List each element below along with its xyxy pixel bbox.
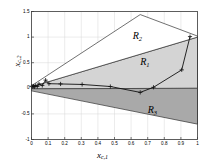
y-axis-label: xc,2 [12,41,22,81]
region-label-R3: R3 [148,104,157,116]
region-label-sub: 1 [146,60,149,67]
figure-canvas: 00.10.20.30.40.50.60.70.80.91 1.510.50-0… [0,0,205,167]
y-tick-label: 0 [14,85,30,90]
region-label-R2: R2 [133,30,142,42]
region-label-R1: R1 [140,56,149,68]
y-axis-label-sub: c,2 [16,56,22,63]
x-tick-label: 1 [188,141,206,146]
y-tick-label: -1 [14,137,30,142]
y-tick-label: 1 [14,34,30,39]
x-axis-label-sub: c,1 [101,154,108,160]
y-tick-label: -0.5 [14,111,30,116]
region-label-sub: 3 [154,108,157,115]
region-polygons [32,15,198,125]
y-tick-label: 1.5 [14,9,30,14]
x-axis-label: xc,1 [0,150,205,160]
y-axis-label-main: x [12,63,22,67]
region-label-sub: 2 [139,35,142,42]
